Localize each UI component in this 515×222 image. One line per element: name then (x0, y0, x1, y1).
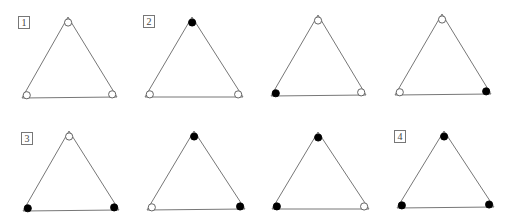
filled-vertex-icon (315, 134, 322, 141)
open-vertex-icon (148, 204, 155, 211)
filled-vertex-icon (24, 205, 31, 212)
open-vertex-icon (314, 17, 321, 24)
filled-vertex-icon (273, 203, 280, 210)
triangle-6 (147, 131, 245, 211)
triangle-outline (23, 131, 119, 211)
open-vertex-icon (65, 19, 72, 26)
triangle-7 (272, 132, 369, 210)
open-vertex-icon (146, 91, 153, 98)
triangle-3 (271, 15, 366, 97)
filled-vertex-icon (272, 90, 279, 97)
filled-vertex-icon (111, 204, 118, 211)
triangle-5 (23, 131, 119, 212)
triangle-4 (395, 14, 491, 96)
filled-vertex-icon (441, 133, 448, 140)
filled-vertex-icon (237, 203, 244, 210)
panel-label: 2 (143, 15, 155, 28)
filled-vertex-icon (398, 202, 405, 209)
triangle-outline (147, 131, 245, 210)
open-vertex-icon (396, 89, 403, 96)
filled-vertex-icon (189, 19, 196, 26)
panel-label: 1 (18, 16, 30, 29)
panel-label: 4 (394, 130, 406, 143)
triangle-outline (145, 17, 243, 97)
triangle-outline (22, 17, 117, 98)
triangle-diagram (0, 0, 515, 222)
filled-vertex-icon (191, 133, 198, 140)
triangle-outline (271, 15, 366, 96)
filled-vertex-icon (486, 201, 493, 208)
triangle-2 (145, 17, 243, 98)
panel-label: 3 (21, 132, 33, 145)
open-vertex-icon (358, 89, 365, 96)
open-vertex-icon (66, 133, 73, 140)
triangle-outline (395, 14, 491, 95)
open-vertex-icon (109, 91, 116, 98)
open-vertex-icon (361, 203, 368, 210)
filled-vertex-icon (483, 88, 490, 95)
triangle-8 (397, 131, 494, 209)
open-vertex-icon (235, 91, 242, 98)
open-vertex-icon (438, 16, 445, 23)
triangle-outline (397, 131, 494, 208)
triangle-1 (22, 17, 117, 99)
triangle-outline (272, 132, 369, 209)
open-vertex-icon (23, 92, 30, 99)
